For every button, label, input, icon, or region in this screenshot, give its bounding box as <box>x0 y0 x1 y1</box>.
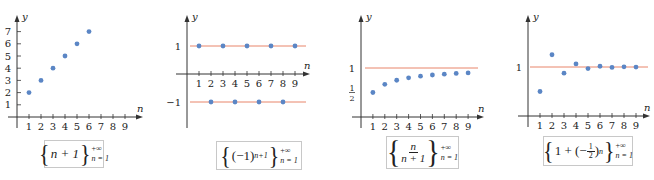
x-axis-arrow-icon <box>477 115 484 120</box>
data-point <box>221 44 226 49</box>
x-tick-label: 2 <box>382 121 388 132</box>
x-tick-label: 7 <box>441 121 447 132</box>
y-axis-label: y <box>365 11 372 22</box>
plot-2: yn1234567891−1 <box>166 11 310 128</box>
x-tick-label: 2 <box>208 78 214 89</box>
x-tick-label: 3 <box>394 121 400 132</box>
y-tick-label: 7 <box>5 26 11 37</box>
data-point <box>27 90 32 95</box>
data-point <box>75 41 80 46</box>
data-point <box>51 66 56 71</box>
y-tick-label: 3 <box>5 75 11 86</box>
x-axis-arrow-icon <box>136 115 143 120</box>
x-tick-label: 9 <box>633 120 639 131</box>
left-brace: { <box>387 136 400 168</box>
x-tick-label: 5 <box>74 121 80 132</box>
x-axis-label: n <box>304 60 310 71</box>
x-tick-label: 7 <box>268 78 274 89</box>
data-point <box>63 54 68 59</box>
plot-1: yn1234567891234567 <box>5 11 144 132</box>
x-axis-arrow-icon <box>303 72 310 77</box>
x-axis-label: n <box>137 103 143 114</box>
x-tick-label: 3 <box>561 120 567 131</box>
data-point <box>233 100 238 105</box>
y-tick-label: 1 <box>349 63 355 74</box>
data-point <box>269 44 274 49</box>
x-tick-label: 6 <box>597 120 603 131</box>
data-point <box>209 100 214 105</box>
right-brace: } <box>604 138 615 163</box>
data-point <box>39 78 44 83</box>
x-tick-label: 9 <box>122 121 128 132</box>
right-brace: } <box>426 136 439 168</box>
y-axis-label: y <box>532 11 539 22</box>
x-tick-label: 4 <box>232 78 238 89</box>
left-brace: { <box>543 138 554 163</box>
x-tick-label: 8 <box>110 121 116 132</box>
x-tick-label: 1 <box>26 121 32 132</box>
y-tick-label-numerator: 1 <box>349 84 354 93</box>
data-point <box>622 64 627 69</box>
data-point <box>406 75 411 80</box>
data-point <box>598 64 603 69</box>
fraction-one-half: 1 2 <box>587 143 595 160</box>
caption-sequence-n-plus-1: { n + 1 } +∞ n = 1 <box>44 140 104 168</box>
data-point <box>87 29 92 34</box>
x-tick-label: 9 <box>465 121 471 132</box>
left-brace: { <box>39 141 50 166</box>
x-tick-label: 8 <box>621 120 627 131</box>
x-tick-label: 2 <box>38 121 44 132</box>
caption-expression: (−1)n+1 <box>231 148 269 164</box>
x-tick-label: 1 <box>537 120 543 131</box>
y-axis-arrow-icon <box>526 15 531 22</box>
x-tick-label: 9 <box>292 78 298 89</box>
data-point <box>550 52 555 57</box>
x-tick-label: 6 <box>429 121 435 132</box>
x-tick-label: 8 <box>280 78 286 89</box>
x-axis-label: n <box>644 102 650 113</box>
plot-3: yn123456789121 <box>349 11 485 132</box>
x-tick-label: 5 <box>417 121 423 132</box>
y-tick-label: −1 <box>166 97 181 108</box>
right-brace: } <box>269 143 280 168</box>
data-point <box>382 82 387 87</box>
x-tick-label: 4 <box>573 120 579 131</box>
x-tick-label: 2 <box>549 120 555 131</box>
y-axis-label: y <box>191 11 198 22</box>
y-axis-arrow-icon <box>359 15 364 22</box>
x-tick-label: 7 <box>609 120 615 131</box>
data-point <box>281 100 286 105</box>
x-tick-label: 5 <box>585 120 591 131</box>
caption-limits: +∞ n = 1 <box>441 143 458 163</box>
caption-expression: n n + 1 <box>400 141 426 164</box>
x-axis-arrow-icon <box>643 114 650 119</box>
x-tick-label: 4 <box>405 121 411 132</box>
right-brace: } <box>80 141 91 166</box>
caption-limits: +∞ n = 1 <box>280 146 297 166</box>
caption-sequence-n-over-n-plus-1: { n n + 1 } +∞ n = 1 <box>386 136 459 169</box>
x-tick-label: 3 <box>50 121 56 132</box>
caption-sequence-geometric-oscillating: { 1 + (− 1 2 )n } +∞ n = 1 <box>543 136 633 166</box>
x-tick-label: 1 <box>370 121 376 132</box>
x-tick-label: 3 <box>220 78 226 89</box>
data-point <box>454 71 459 76</box>
x-tick-label: 7 <box>98 121 104 132</box>
plot-4: yn1234567891 <box>516 11 651 131</box>
x-tick-label: 8 <box>453 121 459 132</box>
data-point <box>245 44 250 49</box>
x-axis-label: n <box>478 103 484 114</box>
x-tick-label: 5 <box>244 78 250 89</box>
fraction: n n + 1 <box>401 141 425 164</box>
data-point <box>371 90 376 95</box>
data-point <box>634 65 639 70</box>
data-point <box>562 71 567 76</box>
y-tick-label: 4 <box>5 63 11 74</box>
sequence-plots-figure: yn1234567891234567yn1234567891−1yn123456… <box>0 0 654 180</box>
data-point <box>418 74 423 79</box>
y-tick-label: 1 <box>5 99 11 110</box>
left-brace: { <box>220 143 231 168</box>
data-point <box>197 44 202 49</box>
caption-sequence-alternating: { (−1)n+1 } +∞ n = 1 <box>216 141 302 170</box>
y-tick-label: 2 <box>5 87 11 98</box>
data-point <box>610 65 615 70</box>
